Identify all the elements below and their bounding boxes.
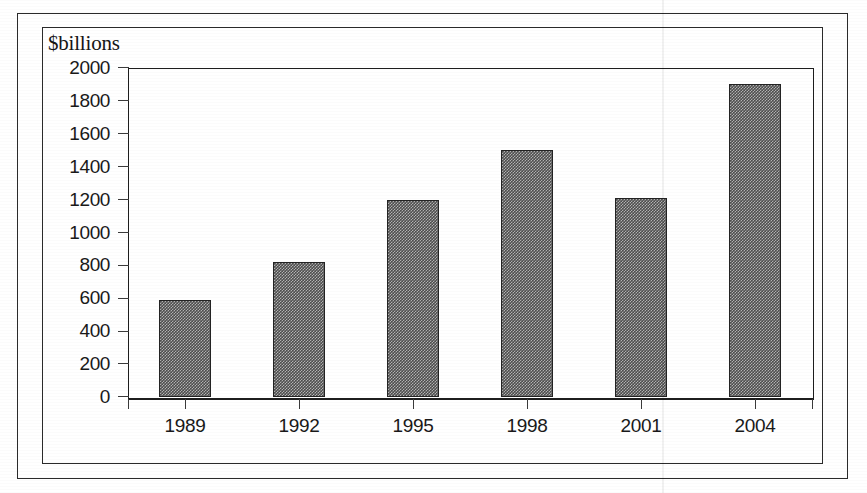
y-axis-unit-label: $billions — [48, 33, 120, 54]
x-axis-tick-label: 1998 — [470, 416, 584, 436]
x-axis-tick — [641, 399, 642, 409]
y-axis-tick-label-text: 200 — [48, 354, 110, 373]
x-axis-tick-label: 2004 — [698, 416, 812, 436]
y-axis-tick-label: 2000 — [48, 58, 110, 77]
y-axis-tick-label: 1800 — [48, 91, 110, 110]
x-axis-tick — [755, 399, 756, 409]
y-axis-tick-label-text: 800 — [48, 255, 110, 274]
x-axis-tick-label: 2001 — [584, 416, 698, 436]
y-axis-tick-label: 1200 — [48, 190, 110, 209]
x-axis-tick — [527, 399, 528, 409]
bar-chart-figure: $billions 020040060080010001200140016001… — [0, 0, 867, 493]
y-axis-tick-label-text: 1800 — [48, 91, 110, 110]
x-axis-tick-label: 1992 — [242, 416, 356, 436]
bar — [387, 200, 439, 397]
y-axis-tick-label-text: 1400 — [48, 157, 110, 176]
y-axis-tick-label: 1000 — [48, 223, 110, 242]
y-axis-tick-label: 600 — [48, 288, 110, 307]
y-axis-tick-label-text: 600 — [48, 288, 110, 307]
y-axis-tick-label-text: 400 — [48, 321, 110, 340]
bar — [615, 198, 667, 397]
y-axis-tick-label-text: 1600 — [48, 124, 110, 143]
y-axis-tick-label: 1400 — [48, 157, 110, 176]
y-axis-tick-label: 800 — [48, 255, 110, 274]
bar — [273, 262, 325, 397]
y-axis-tick-label: 400 — [48, 321, 110, 340]
x-axis-edge-tick — [812, 399, 813, 409]
y-axis-tick-label-text: 1000 — [48, 223, 110, 242]
bar — [501, 150, 553, 397]
y-axis-tick-label: 0 — [48, 387, 110, 406]
y-axis-tick-label-text: 2000 — [48, 58, 110, 77]
y-axis-tick-label-text: 0 — [48, 387, 110, 406]
x-axis-tick-label: 1995 — [356, 416, 470, 436]
y-axis-tick-label-text: 1200 — [48, 190, 110, 209]
x-axis-edge-tick — [128, 399, 129, 409]
bar — [729, 84, 781, 397]
y-axis-tick-label: 200 — [48, 354, 110, 373]
bar — [159, 300, 211, 397]
x-axis-tick — [413, 399, 414, 409]
x-axis-tick — [185, 399, 186, 409]
x-axis-tick-label: 1989 — [128, 416, 242, 436]
x-axis-tick — [299, 399, 300, 409]
bar-series — [128, 68, 812, 397]
y-axis-tick-label: 1600 — [48, 124, 110, 143]
